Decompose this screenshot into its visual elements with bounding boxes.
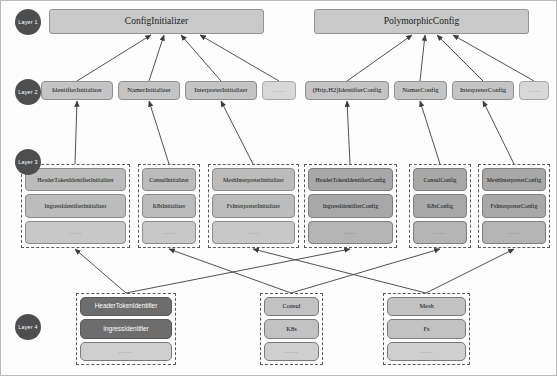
layer2-ellipsis-box[interactable]: ...... — [262, 81, 296, 100]
layer-badge: Layer 3 — [15, 149, 41, 175]
layer1-class-box[interactable]: PolymorphicConfig — [314, 9, 529, 34]
layer4-class-box[interactable]: K8s — [264, 319, 319, 338]
layer3-class-box[interactable]: FsInterpreterConfig — [482, 194, 546, 217]
layer2-class-box[interactable]: InterpreterConfig — [452, 81, 514, 100]
layer3-class-box[interactable]: MeshInterpreterInitializer — [212, 168, 295, 191]
layer-badge: Layer 4 — [15, 314, 41, 340]
layer3-class-box[interactable]: ConsulConfig — [413, 168, 467, 191]
layer-badge: Layer 2 — [15, 79, 41, 105]
layer3-ellipsis-box[interactable]: ...... — [25, 221, 126, 244]
layer3-class-box[interactable]: IngressIdentifierConfig — [308, 194, 393, 217]
layer4-ellipsis-box[interactable]: ...... — [264, 342, 319, 361]
layer2-ellipsis-box[interactable]: ...... — [519, 81, 549, 100]
layer4-class-box[interactable]: HeaderTokenIdentifier — [80, 297, 172, 316]
layer4-class-box[interactable]: Fs — [387, 319, 466, 338]
layer1-class-box[interactable]: ConfigInitializer — [49, 9, 264, 34]
layer2-class-box[interactable]: (Http,H2)IdentifierConfig — [305, 81, 389, 100]
layer3-class-box[interactable]: K8sConfig — [413, 194, 467, 217]
layer4-class-box[interactable]: IngressIdentifier — [80, 319, 172, 338]
layer3-ellipsis-box[interactable]: ...... — [212, 221, 295, 244]
layer2-class-box[interactable]: NamerInitializer — [118, 81, 180, 100]
layer4-class-box[interactable]: Consul — [264, 297, 319, 316]
layer3-class-box[interactable]: MeshInterpreterConfig — [482, 168, 546, 191]
layer2-class-box[interactable]: IdentifierInitializer — [41, 81, 113, 100]
layer4-class-box[interactable]: Mesh — [387, 297, 466, 316]
layer3-class-box[interactable]: IngressIdentifierInitializer — [25, 194, 126, 217]
layer2-class-box[interactable]: InterpreterInitializer — [185, 81, 257, 100]
diagram-canvas: Layer 1Layer 2Layer 3Layer 4 ConfigIniti… — [0, 0, 557, 376]
layer3-class-box[interactable]: ConsulInitializer — [142, 168, 196, 191]
layer4-ellipsis-box[interactable]: ...... — [387, 342, 466, 361]
layer3-class-box[interactable]: HeaderTokenIdentifierInitializer — [25, 168, 126, 191]
layer3-ellipsis-box[interactable]: ...... — [413, 221, 467, 244]
layer4-ellipsis-box[interactable]: ...... — [80, 342, 172, 361]
layer3-ellipsis-box[interactable]: ...... — [142, 221, 196, 244]
layer-badge: Layer 1 — [15, 9, 41, 35]
layer3-class-box[interactable]: FsInterpreterInitializer — [212, 194, 295, 217]
layer3-ellipsis-box[interactable]: ...... — [482, 221, 546, 244]
layer2-class-box[interactable]: NamerConfig — [394, 81, 447, 100]
layer3-class-box[interactable]: HeaderTokenIdentifierConfig — [308, 168, 393, 191]
layer3-class-box[interactable]: K8sInitializer — [142, 194, 196, 217]
layer3-ellipsis-box[interactable]: ...... — [308, 221, 393, 244]
